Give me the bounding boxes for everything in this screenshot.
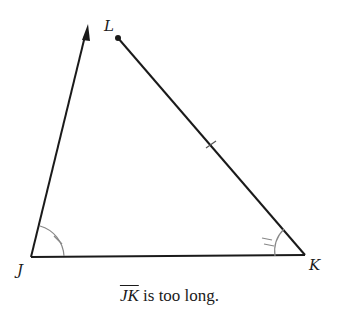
angle-j-tick (54, 236, 62, 244)
segment-jk (31, 255, 305, 257)
point-l-dot (115, 35, 121, 41)
label-j: J (14, 261, 24, 279)
caption: JK is too long. (0, 286, 339, 306)
angle-k-tick-2 (264, 244, 274, 246)
label-l: L (103, 17, 114, 35)
arrowhead-icon (82, 24, 90, 41)
caption-text: is too long. (139, 286, 219, 305)
segment-kl (118, 38, 305, 255)
caption-segment: JK (120, 286, 139, 305)
angle-k-tick-1 (262, 238, 272, 240)
ray-from-j (31, 36, 85, 257)
angle-j-arc (40, 226, 64, 256)
triangle-diagram: L J K (0, 0, 339, 321)
label-k: K (308, 256, 321, 274)
angle-k-arc (275, 229, 284, 256)
